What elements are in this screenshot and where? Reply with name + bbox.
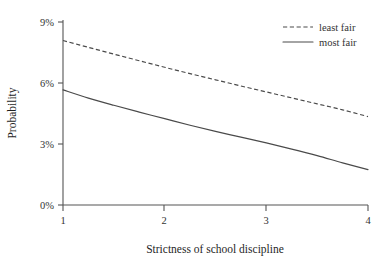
y-axis-title: Probability	[6, 87, 19, 138]
y-tick-labels: 9% 6% 3% 0%	[40, 17, 54, 211]
x-tick-marks	[63, 205, 368, 211]
series-line-most-fair	[63, 90, 368, 170]
y-tick-label-0: 0%	[40, 200, 54, 211]
chart-container: 9% 6% 3% 0% 1 2 3 4 Strictness of school…	[0, 0, 381, 266]
probability-line-chart: 9% 6% 3% 0% 1 2 3 4 Strictness of school…	[0, 0, 381, 266]
y-tick-label-6: 6%	[40, 78, 54, 89]
x-tick-label-4: 4	[365, 215, 371, 226]
legend-label-most-fair: most fair	[319, 37, 357, 48]
series-line-least-fair	[63, 41, 368, 117]
x-tick-label-2: 2	[161, 215, 166, 226]
legend: least fair most fair	[283, 22, 357, 48]
x-tick-label-1: 1	[60, 215, 65, 226]
y-tick-marks	[58, 22, 63, 205]
y-tick-label-9: 9%	[40, 17, 54, 28]
series-group	[63, 41, 368, 170]
x-axis-title: Strictness of school discipline	[146, 243, 284, 256]
x-tick-labels: 1 2 3 4	[60, 215, 371, 226]
legend-label-least-fair: least fair	[319, 22, 356, 33]
x-tick-label-3: 3	[263, 215, 268, 226]
y-tick-label-3: 3%	[40, 139, 54, 150]
